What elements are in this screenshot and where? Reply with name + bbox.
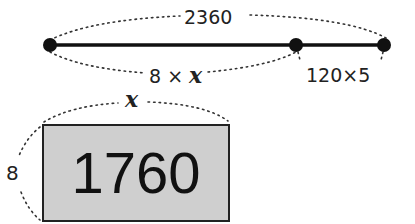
rect-area-label: 1760 <box>71 144 200 202</box>
rect-width-arc-left <box>44 103 118 122</box>
total-length-arc-left <box>50 16 180 40</box>
left-part-arc-left <box>50 52 145 73</box>
right-part-tick-left <box>298 52 300 60</box>
right-part-label: 120×5 <box>306 66 370 85</box>
left-part-arc-right <box>208 52 296 72</box>
right-part-tick-right <box>381 52 383 60</box>
left-part-coefficient: 8 × <box>149 65 189 87</box>
total-length-arc-right <box>250 15 386 38</box>
rect-height-arc-bottom <box>21 192 40 220</box>
segment-end-point <box>377 38 391 52</box>
segment-start-point <box>43 38 57 52</box>
rect-width-label: x <box>125 88 138 110</box>
rect-width-arc-right <box>148 102 228 121</box>
rect-height-label: 8 <box>6 163 19 183</box>
total-length-label: 2360 <box>184 8 232 27</box>
segment-split-point <box>289 38 303 52</box>
rect-height-arc-top <box>18 127 40 158</box>
area-rectangle: 1760 <box>42 124 230 222</box>
left-part-variable: x <box>189 62 202 88</box>
left-part-label: 8 × x <box>149 64 202 86</box>
